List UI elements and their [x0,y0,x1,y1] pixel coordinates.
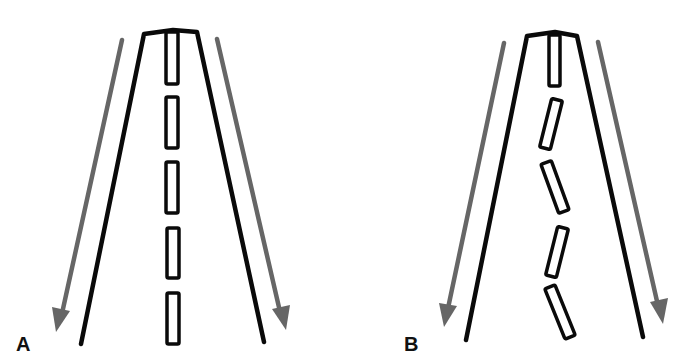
panel-a: A [0,0,345,364]
panel-label-a: A [16,334,30,354]
road-diagram-b [345,0,689,364]
road-diagram-a [0,0,345,364]
panel-label-b: B [404,334,418,354]
center-dashes-zigzag [540,35,576,339]
center-dashes [166,32,179,344]
arrow-left-lane-icon [439,43,504,327]
panel-b: B [345,0,689,364]
